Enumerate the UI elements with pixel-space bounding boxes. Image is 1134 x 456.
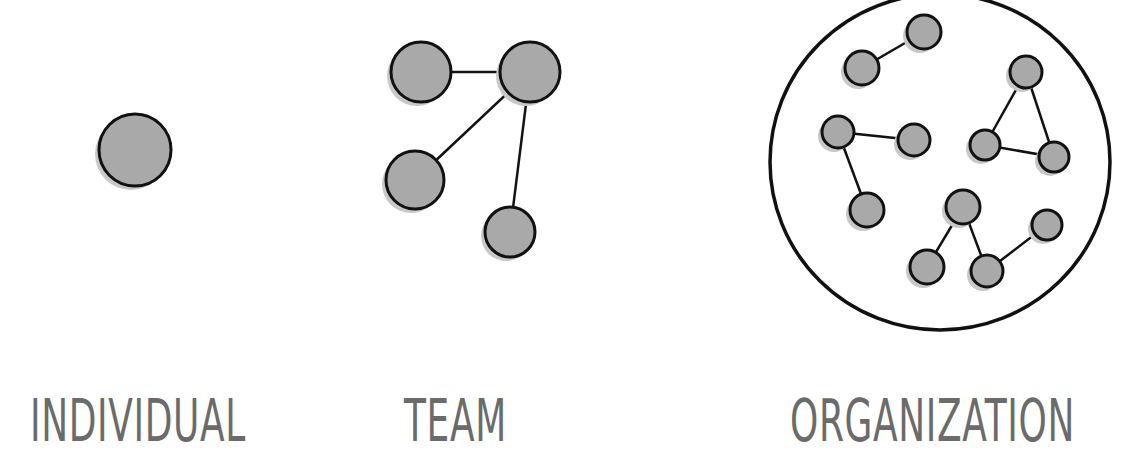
node: [845, 51, 879, 85]
individual-group: [95, 114, 171, 190]
node: [850, 193, 884, 227]
node: [1039, 142, 1069, 172]
node: [485, 207, 535, 257]
node: [910, 250, 944, 284]
node: [99, 114, 171, 186]
node: [946, 190, 980, 224]
node: [386, 151, 444, 209]
node: [1032, 210, 1062, 240]
node: [500, 42, 560, 102]
node: [1010, 56, 1042, 88]
node: [970, 130, 1000, 160]
node: [907, 15, 941, 49]
node: [391, 42, 451, 102]
organization-group: [770, 0, 1110, 330]
label-organization: ORGANIZATION: [790, 386, 1075, 456]
label-team: TEAM: [404, 386, 507, 456]
label-individual: INDIVIDUAL: [30, 386, 246, 456]
node: [971, 255, 1003, 287]
node: [822, 116, 854, 148]
team-group: [382, 42, 560, 261]
node: [898, 124, 930, 156]
